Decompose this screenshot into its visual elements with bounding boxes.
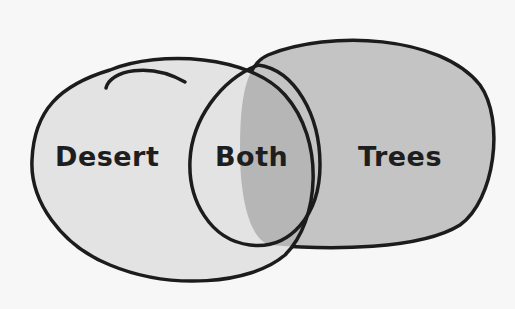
both-label: Both bbox=[215, 141, 288, 172]
desert-label: Desert bbox=[55, 141, 159, 172]
trees-label: Trees bbox=[358, 141, 442, 172]
